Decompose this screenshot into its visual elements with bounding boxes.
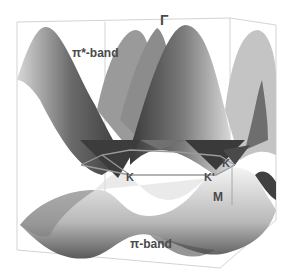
- pi-star-band-surface: [17, 25, 276, 178]
- gamma-point-label: Γ: [160, 13, 168, 27]
- band-structure-figure: Γ π*-band K K' K M π-band: [0, 0, 289, 278]
- pi-band-label: π-band: [130, 238, 172, 250]
- k-point-label: K: [126, 172, 134, 183]
- pi-star-band-label: π*-band: [72, 47, 119, 59]
- m-point-label: M: [213, 191, 223, 203]
- k-point-label-right: K: [222, 158, 230, 169]
- k-prime-point-label: K': [204, 172, 215, 183]
